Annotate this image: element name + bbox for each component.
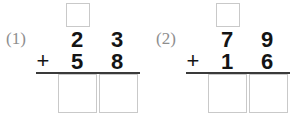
problem-2-label: (2) <box>156 30 176 47</box>
problem-1-carry-box[interactable] <box>66 3 90 27</box>
problem-1-plus-sign: + <box>33 50 53 72</box>
problem-2-addend2-tens: 1 <box>216 51 238 73</box>
problem-1-addend2-tens: 5 <box>66 51 88 73</box>
problem-2-plus-sign: + <box>183 50 203 72</box>
problem-2-addend2-ones: 6 <box>256 51 278 73</box>
problem-2-addend1-ones: 9 <box>256 29 278 51</box>
addition-worksheet: (1) 2 3 + 5 8 (2) 7 9 + 1 6 <box>0 0 300 120</box>
problem-2-answer-tens-box[interactable] <box>208 74 247 113</box>
problem-1-addend1-tens: 2 <box>66 29 88 51</box>
problem-1-answer-tens-box[interactable] <box>58 74 97 113</box>
problem-1-label: (1) <box>6 30 26 47</box>
problem-2-addend1-tens: 7 <box>216 29 238 51</box>
problem-1-addend1-ones: 3 <box>106 29 128 51</box>
problem-2-carry-box[interactable] <box>216 3 240 27</box>
problem-1-answer-ones-box[interactable] <box>99 74 138 113</box>
problem-2: (2) 7 9 + 1 6 <box>150 0 300 120</box>
problem-1: (1) 2 3 + 5 8 <box>0 0 150 120</box>
problem-1-addend2-ones: 8 <box>106 51 128 73</box>
problem-2-answer-ones-box[interactable] <box>249 74 288 113</box>
